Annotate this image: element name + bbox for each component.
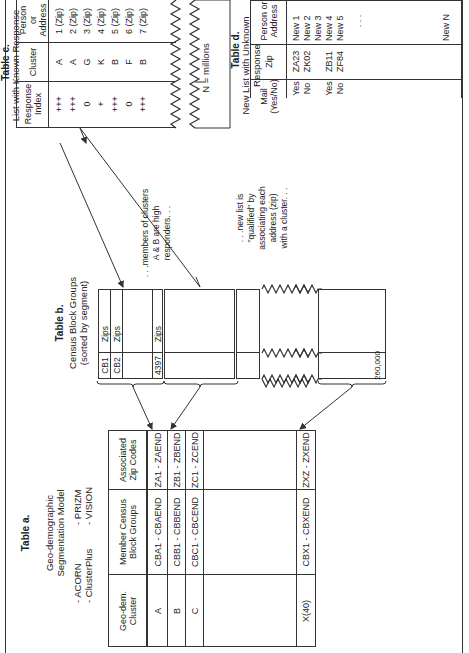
table-d-ellipsis: . . . bbox=[352, 1, 363, 41]
table-c-index: 0 bbox=[80, 82, 94, 126]
table-d-mail: Yes bbox=[323, 80, 334, 97]
table-c-cluster: G bbox=[80, 44, 94, 80]
table-c-person: 5 (Zip) bbox=[108, 1, 122, 41]
table-d-person: New 4 bbox=[323, 1, 334, 41]
table-c-index: +++ bbox=[52, 82, 66, 126]
table-c-index: +++ bbox=[66, 82, 80, 126]
table-d-zip: ZA23 bbox=[290, 45, 301, 78]
table-c-index: + bbox=[94, 82, 108, 126]
table-d-person: New 1 bbox=[290, 1, 301, 41]
table-d-person: New 2 bbox=[301, 1, 312, 41]
table-c-person: 3 (Zip) bbox=[80, 1, 94, 41]
table-d-zip: ZF84 bbox=[334, 45, 345, 78]
table-c-index: 0 bbox=[122, 82, 136, 126]
table-c-person: 4 (Zip) bbox=[94, 1, 108, 41]
table-c-cluster: F bbox=[122, 44, 136, 80]
table-c-person: 2 (Zip) bbox=[66, 1, 80, 41]
table-d-mail: No bbox=[334, 80, 345, 97]
diagram-canvas: Table a. Geo-demographic Segmentation Mo… bbox=[0, 0, 469, 653]
table-d-mail: No bbox=[301, 80, 312, 97]
table-d-mail: Yes bbox=[290, 80, 301, 97]
table-c-index: +++ bbox=[108, 82, 122, 126]
table-c-cluster: A bbox=[52, 44, 66, 80]
table-d-person: New 5 bbox=[334, 1, 345, 41]
table-c-cluster: K bbox=[94, 44, 108, 80]
table-c-cluster: B bbox=[136, 44, 150, 80]
table-d-zip: ZB11 bbox=[323, 45, 334, 78]
table-c-cluster: B bbox=[108, 44, 122, 80]
table-d-person: New 3 bbox=[312, 1, 323, 41]
table-c-index: +++ bbox=[136, 82, 150, 126]
table-c-person: 7 (Zip) bbox=[136, 1, 150, 41]
table-c-person: 1 (Zip) bbox=[52, 1, 66, 41]
table-c-person: 6 (Zip) bbox=[122, 1, 136, 41]
table-d-zip: ZK02 bbox=[301, 45, 312, 78]
table-d-last-row: New N bbox=[440, 1, 451, 41]
table-c-cluster: A bbox=[66, 44, 80, 80]
